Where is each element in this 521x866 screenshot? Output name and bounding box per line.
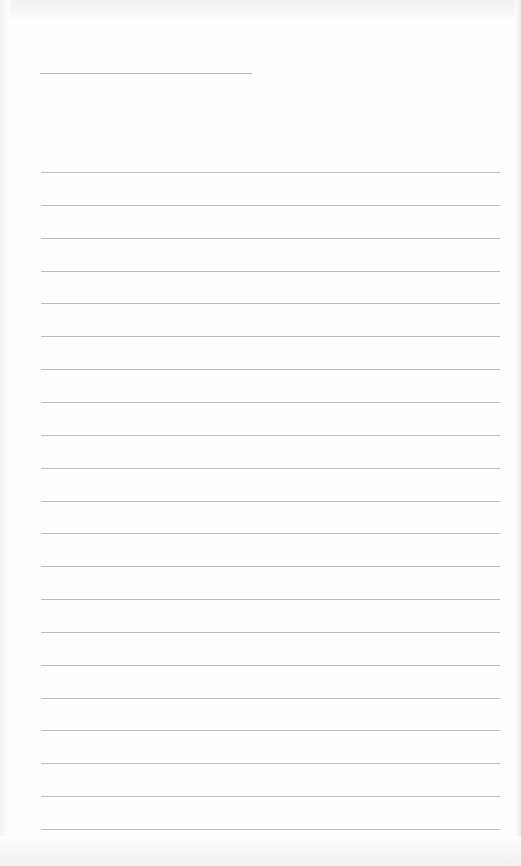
ruled-line [41,599,500,600]
right-edge-shadow [515,0,521,866]
ruled-line [41,369,500,370]
ruled-line [41,402,500,403]
bottom-edge-bleed [0,836,521,866]
lined-paper-page [0,0,521,866]
ruled-line [41,468,500,469]
ruled-line [41,763,500,764]
ruled-line [41,501,500,502]
ruled-line [41,632,500,633]
ruled-line [41,730,500,731]
ruled-line [41,303,500,304]
ruled-line [41,172,500,173]
ruled-line [41,566,500,567]
name-line [40,73,252,74]
ruled-line [41,238,500,239]
ruled-line [41,336,500,337]
left-edge-shadow [0,0,10,866]
ruled-line [41,271,500,272]
ruled-line [41,205,500,206]
ruled-line [41,533,500,534]
ruled-line [41,665,500,666]
ruled-line [41,435,500,436]
ruled-line [41,829,500,830]
top-edge-bleed [0,0,521,22]
ruled-line [41,698,500,699]
ruled-line [41,796,500,797]
